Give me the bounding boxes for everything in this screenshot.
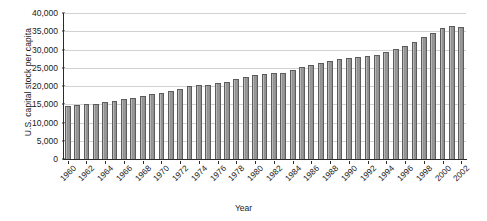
bar <box>102 102 108 159</box>
x-tick-label: 1964 <box>95 163 115 183</box>
x-tick-label: 1972 <box>170 163 190 183</box>
bars-layer <box>63 13 466 159</box>
bar <box>412 42 418 159</box>
x-axis-ticks: 1960196219641966196819701972197419761978… <box>63 161 466 201</box>
bar <box>177 89 183 159</box>
bar <box>346 58 352 159</box>
bar <box>421 37 427 159</box>
x-tick-label: 1966 <box>114 163 134 183</box>
x-tick-label: 1968 <box>133 163 153 183</box>
y-axis-line <box>63 13 64 160</box>
bar <box>74 105 80 159</box>
bar <box>271 73 277 159</box>
bar <box>233 79 239 159</box>
bar <box>252 75 258 159</box>
x-tick-label: 1978 <box>226 163 246 183</box>
x-tick-label: 1962 <box>76 163 96 183</box>
bar <box>393 49 399 159</box>
y-tick-label: 40,000 <box>12 8 58 18</box>
bar <box>205 85 211 159</box>
bar <box>84 104 90 159</box>
bar <box>65 106 71 159</box>
bar <box>149 94 155 159</box>
x-tick-label: 1998 <box>414 163 434 183</box>
bar <box>374 55 380 159</box>
bar <box>365 56 371 159</box>
x-tick-mark <box>368 161 369 164</box>
y-tick-label: 35,000 <box>12 26 58 36</box>
bar <box>318 63 324 159</box>
bar <box>280 73 286 160</box>
bar <box>299 67 305 159</box>
bar <box>187 86 193 159</box>
y-tick-label: 30,000 <box>12 45 58 55</box>
bar <box>168 91 174 159</box>
plot-area <box>63 13 466 159</box>
bar <box>308 65 314 159</box>
bar <box>262 74 268 159</box>
y-axis-ticks: 40,00035,00030,00025,00020,00015,00010,0… <box>10 13 58 159</box>
bar <box>337 59 343 159</box>
x-tick-label: 1986 <box>301 163 321 183</box>
bar <box>458 27 464 159</box>
x-axis-title: Year <box>0 203 487 213</box>
bar <box>159 93 165 159</box>
bar <box>130 98 136 159</box>
x-tick-label: 2000 <box>433 163 453 183</box>
bar <box>196 85 202 159</box>
bar <box>290 70 296 159</box>
x-tick-label: 1984 <box>283 163 303 183</box>
bar <box>215 83 221 159</box>
x-tick-label: 1994 <box>376 163 396 183</box>
bar-chart-figure: U.S. capital stock per capita 40,00035,0… <box>0 0 487 221</box>
x-tick-mark <box>443 161 444 164</box>
x-tick-label: 1990 <box>339 163 359 183</box>
bar <box>93 104 99 159</box>
x-tick-label: 1992 <box>358 163 378 183</box>
x-tick-label: 1960 <box>58 163 78 183</box>
bar <box>355 57 361 159</box>
x-tick-label: 1996 <box>395 163 415 183</box>
bar <box>449 26 455 159</box>
bar <box>327 61 333 159</box>
x-tick-label: 1982 <box>264 163 284 183</box>
x-tick-mark <box>293 161 294 164</box>
bar <box>121 99 127 159</box>
y-tick-label: 0 <box>12 154 58 164</box>
bar <box>430 33 436 159</box>
bar <box>140 96 146 159</box>
y-tick-label: 10,000 <box>12 118 58 128</box>
x-tick-label: 1980 <box>245 163 265 183</box>
bar <box>112 101 118 159</box>
x-axis-line <box>63 159 467 160</box>
x-tick-label: 2002 <box>451 163 471 183</box>
y-tick-label: 25,000 <box>12 63 58 73</box>
x-tick-label: 1976 <box>208 163 228 183</box>
y-tick-label: 5,000 <box>12 136 58 146</box>
x-tick-label: 1974 <box>189 163 209 183</box>
bar <box>383 52 389 159</box>
x-tick-label: 1970 <box>151 163 171 183</box>
x-tick-label: 1988 <box>320 163 340 183</box>
y-tick-label: 15,000 <box>12 99 58 109</box>
y-tick-label: 20,000 <box>12 81 58 91</box>
bar <box>243 77 249 159</box>
bar <box>224 82 230 159</box>
bar <box>402 46 408 159</box>
bar <box>440 28 446 159</box>
